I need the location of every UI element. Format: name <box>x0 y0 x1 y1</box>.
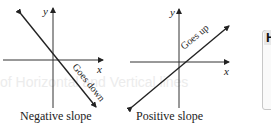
goes-up-label: Goes up <box>178 22 210 52</box>
side-card-heading: H <box>264 30 271 45</box>
positive-slope-line <box>132 26 229 107</box>
y-axis-label: y <box>42 5 48 17</box>
y-axis-label: y <box>169 6 175 18</box>
positive-slope-caption: Positive slope <box>136 109 203 124</box>
negative-slope-caption: Negative slope <box>20 109 92 124</box>
slope-diagram: y x Goes down y x Goes up <box>0 0 271 127</box>
positive-slope-graph: y x Goes up <box>130 6 229 108</box>
x-axis-label: x <box>223 65 229 77</box>
negative-slope-graph: y x Goes down <box>3 5 107 108</box>
x-axis-label: x <box>96 63 102 75</box>
